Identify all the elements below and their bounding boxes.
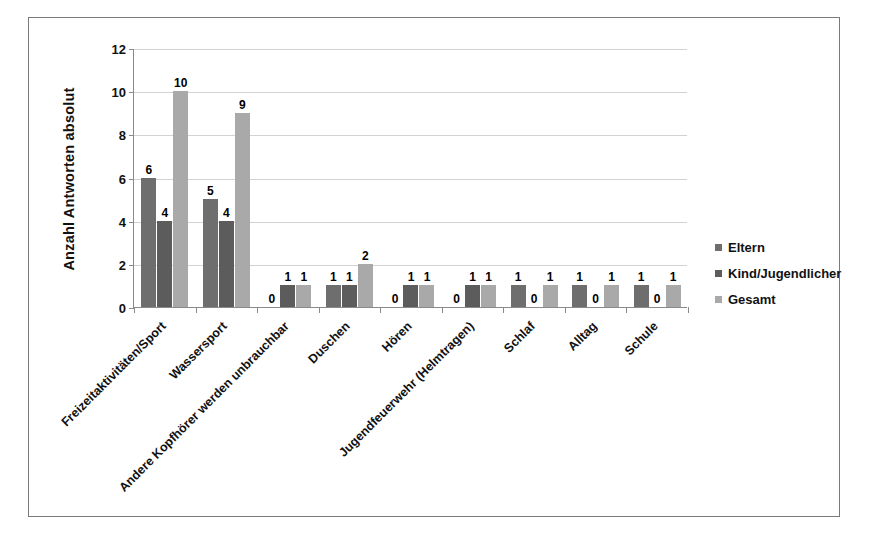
bar-value-label: 0: [531, 293, 538, 305]
y-tick-label: 0: [119, 301, 126, 316]
bar-value-label: 1: [424, 271, 431, 283]
bar-group-bars: 112: [319, 49, 381, 307]
bar-value-label: 1: [576, 271, 583, 283]
bar-group: 549: [196, 49, 258, 307]
bar-value-label: 2: [362, 250, 369, 262]
bar-value-label: 1: [285, 271, 292, 283]
bar-value-label: 0: [592, 293, 599, 305]
legend-swatch-icon: [715, 296, 722, 303]
x-tick-mark: [626, 307, 627, 313]
bar[interactable]: 1: [403, 285, 418, 307]
bar[interactable]: 1: [666, 285, 681, 307]
bar[interactable]: 4: [219, 221, 234, 307]
bar-group: 101: [565, 49, 627, 307]
y-axis-title-label: Anzahl Antworten absolut: [61, 87, 77, 270]
bar-value-label: 1: [670, 271, 677, 283]
bar[interactable]: 1: [342, 285, 357, 307]
bar-group: 011: [257, 49, 319, 307]
bar-group-bars: 6410: [134, 49, 196, 307]
x-tick-mark: [442, 307, 443, 313]
bar-group-bars: 011: [380, 49, 442, 307]
bar-group: 101: [503, 49, 565, 307]
bar[interactable]: 1: [511, 285, 526, 307]
bar[interactable]: 1: [543, 285, 558, 307]
legend-item-label: Gesamt: [728, 292, 776, 307]
legend-item-label: Kind/Jugendlicher: [728, 266, 841, 281]
x-tick-mark: [257, 307, 258, 313]
chart-legend: ElternKind/JugendlicherGesamt: [715, 240, 841, 307]
bar-value-label: 4: [161, 207, 168, 219]
bar-value-label: 5: [207, 185, 214, 197]
bar[interactable]: 1: [572, 285, 587, 307]
bar-value-label: 1: [485, 271, 492, 283]
bar-value-label: 1: [469, 271, 476, 283]
bar-value-label: 0: [392, 293, 399, 305]
bar-group-bars: 549: [196, 49, 258, 307]
bar-group: 6410: [134, 49, 196, 307]
chart-frame: Anzahl Antworten absolut 024681012641054…: [28, 17, 840, 517]
x-tick-mark: [319, 307, 320, 313]
legend-swatch-icon: [715, 244, 722, 251]
legend-item[interactable]: Eltern: [715, 240, 841, 255]
legend-swatch-icon: [715, 270, 722, 277]
bar[interactable]: 9: [235, 113, 250, 307]
y-tick-label: 4: [119, 214, 126, 229]
bar-value-label: 4: [223, 207, 230, 219]
bar[interactable]: 1: [280, 285, 295, 307]
bar-value-label: 6: [145, 164, 152, 176]
bar-group: 101: [626, 49, 688, 307]
bar-value-label: 1: [301, 271, 308, 283]
bar-value-label: 1: [608, 271, 615, 283]
bar-value-label: 0: [269, 293, 276, 305]
bar-group: 011: [442, 49, 504, 307]
bar[interactable]: 1: [481, 285, 496, 307]
bar[interactable]: 1: [604, 285, 619, 307]
legend-item-label: Eltern: [728, 240, 765, 255]
x-tick-mark: [688, 307, 689, 313]
bar[interactable]: 6: [141, 178, 156, 308]
plot-area: 0246810126410549011112011011101101101: [133, 49, 687, 308]
y-axis-title: Anzahl Antworten absolut: [59, 49, 79, 308]
bar[interactable]: 4: [157, 221, 172, 307]
x-tick-mark: [503, 307, 504, 313]
y-tick-label: 8: [119, 128, 126, 143]
bar-value-label: 1: [346, 271, 353, 283]
bar-group-bars: 101: [503, 49, 565, 307]
bar-value-label: 0: [453, 293, 460, 305]
bar-value-label: 1: [515, 271, 522, 283]
bar[interactable]: 1: [326, 285, 341, 307]
y-tick-label: 10: [112, 85, 126, 100]
bar-value-label: 0: [654, 293, 661, 305]
bar[interactable]: 1: [296, 285, 311, 307]
x-axis-category-label: Wassersport: [0, 320, 230, 551]
x-tick-mark: [380, 307, 381, 313]
bar-value-label: 1: [330, 271, 337, 283]
bar[interactable]: 1: [465, 285, 480, 307]
bar-group: 112: [319, 49, 381, 307]
bar[interactable]: 5: [203, 199, 218, 307]
legend-item[interactable]: Kind/Jugendlicher: [715, 266, 841, 281]
bar-group-bars: 101: [565, 49, 627, 307]
legend-item[interactable]: Gesamt: [715, 292, 841, 307]
bar-group-bars: 011: [442, 49, 504, 307]
bar-value-label: 9: [239, 99, 246, 111]
bar-group-bars: 011: [257, 49, 319, 307]
x-tick-mark: [565, 307, 566, 313]
bar[interactable]: 1: [634, 285, 649, 307]
bar[interactable]: 2: [358, 264, 373, 307]
y-tick-label: 6: [119, 171, 126, 186]
bar-value-label: 1: [408, 271, 415, 283]
bar-value-label: 1: [638, 271, 645, 283]
y-tick-label: 12: [112, 42, 126, 57]
bar-group: 011: [380, 49, 442, 307]
bar[interactable]: 10: [173, 91, 188, 307]
bar[interactable]: 1: [419, 285, 434, 307]
x-tick-mark: [196, 307, 197, 313]
bar-group-bars: 101: [626, 49, 688, 307]
bar-value-label: 10: [174, 77, 187, 89]
x-tick-mark: [134, 307, 135, 313]
bar-value-label: 1: [547, 271, 554, 283]
y-tick-label: 2: [119, 257, 126, 272]
